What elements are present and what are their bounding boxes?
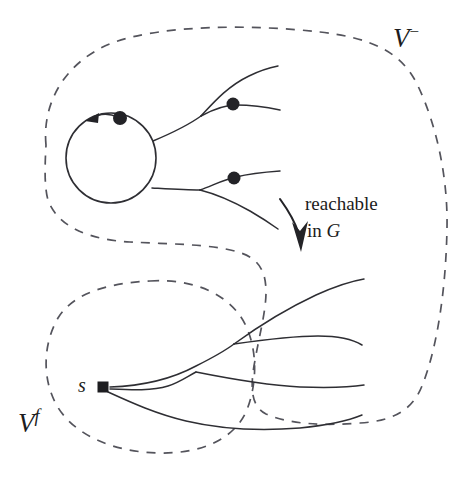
upper-edge-rising: [201, 66, 278, 116]
lower-branch-vertex-dot: [228, 172, 241, 185]
s-edge-middle-fork: [110, 372, 196, 390]
source-node-s-marker: [98, 382, 109, 393]
reachable-annotation-graph-symbol: G: [327, 220, 341, 241]
s-edge-rising-spine: [110, 344, 234, 387]
region-label-v-f-base: V: [18, 408, 35, 438]
region-label-v-f: Vf: [18, 407, 40, 437]
region-label-v-minus-base: V: [393, 23, 410, 53]
source-node-label: s: [78, 375, 86, 396]
s-edge-lower-curve: [108, 392, 362, 429]
reachable-annotation-line-1: reachable: [305, 194, 378, 214]
region-label-v-minus-superscript: −: [410, 22, 420, 41]
v-minus-region-boundary: [45, 27, 447, 424]
edge-upper-flat-right: [234, 336, 362, 345]
edge-steep-up-right: [234, 279, 364, 344]
region-label-v-minus: V−: [393, 23, 419, 52]
figure-canvas: V− Vf s reachable in G: [0, 0, 475, 483]
reachable-annotation-in: in: [307, 220, 327, 241]
edge-middle-right: [196, 372, 364, 387]
upper-edge-from-cycle: [153, 116, 201, 141]
region-label-v-f-superscript: f: [35, 406, 40, 426]
lower-edge-descending: [200, 190, 278, 229]
cycle-vertex-dot: [113, 111, 127, 125]
cycle-arrow-head: [85, 113, 99, 123]
upper-branch-vertex-dot: [227, 98, 240, 111]
upper-edge-through-vertex: [201, 105, 280, 116]
reachable-annotation-line-2: in G: [307, 221, 340, 241]
lower-edge-from-cycle: [152, 188, 200, 190]
reachable-annotation-arrow-head: [292, 221, 308, 252]
directed-cycle: [66, 113, 156, 203]
diagram-svg: [0, 0, 475, 483]
